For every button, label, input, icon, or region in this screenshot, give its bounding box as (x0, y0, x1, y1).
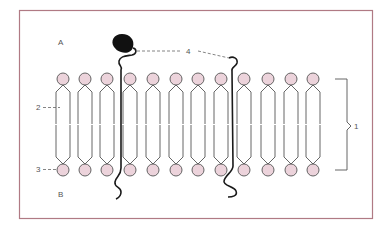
phospholipid-top (123, 73, 137, 124)
polar-head (192, 73, 204, 85)
phospholipid-bottom (214, 125, 228, 176)
fatty-acid-tails (146, 85, 160, 124)
fatty-acid-tails (100, 85, 114, 124)
polar-head (124, 164, 136, 176)
fatty-acid-tails (284, 85, 298, 124)
polar-head (262, 164, 274, 176)
polar-head (101, 73, 113, 85)
fatty-acid-tails (306, 85, 320, 124)
phospholipid-top (237, 73, 251, 124)
phospholipid-bottom (56, 125, 70, 176)
phospholipid-bottom (306, 125, 320, 176)
polar-head (285, 164, 297, 176)
phospholipid-bottom (191, 125, 205, 176)
fatty-acid-tails (191, 85, 205, 124)
polar-head (307, 73, 319, 85)
polar-head (192, 164, 204, 176)
fatty-acid-tails (237, 85, 251, 124)
polar-head (215, 73, 227, 85)
bilayer-bracket (335, 79, 351, 170)
polar-head (170, 73, 182, 85)
phospholipid-bottom (123, 125, 137, 176)
lipid-bilayer-diagram: 4 A B 2 3 1 (0, 0, 388, 232)
fatty-acid-tails (78, 85, 92, 124)
polar-head (147, 164, 159, 176)
phospholipid-bottom (100, 125, 114, 176)
fatty-acid-tails (214, 125, 228, 164)
fatty-acid-tails (56, 85, 70, 124)
fatty-acid-tails (214, 85, 228, 124)
polar-head (57, 164, 69, 176)
phospholipid-top (306, 73, 320, 124)
protein-domain-blob (112, 34, 133, 53)
fatty-acid-tails (169, 85, 183, 124)
polar-head (238, 73, 250, 85)
polar-head (262, 73, 274, 85)
fatty-acid-tails (123, 125, 137, 164)
polar-head (79, 73, 91, 85)
protein-chain-left (115, 48, 136, 199)
phospholipid-top (100, 73, 114, 124)
polar-head (147, 73, 159, 85)
polar-head (124, 73, 136, 85)
polar-head (285, 73, 297, 85)
side-label-top: A (58, 38, 64, 47)
phospholipid-top (261, 73, 275, 124)
callout-label-bilayer: 1 (354, 122, 359, 131)
polar-head (57, 73, 69, 85)
phospholipid-top (284, 73, 298, 124)
phospholipid-top (214, 73, 228, 124)
phospholipid-layer (56, 73, 320, 176)
polar-head (101, 164, 113, 176)
fatty-acid-tails (237, 125, 251, 164)
phospholipid-top (78, 73, 92, 124)
callout-label-head: 3 (36, 165, 41, 174)
callout-4-leaders (137, 51, 229, 58)
phospholipid-bottom (284, 125, 298, 176)
phospholipid-top (146, 73, 160, 124)
fatty-acid-tails (56, 125, 70, 164)
phospholipid-bottom (237, 125, 251, 176)
fatty-acid-tails (123, 85, 137, 124)
fatty-acid-tails (169, 125, 183, 164)
fatty-acid-tails (191, 125, 205, 164)
fatty-acid-tails (146, 125, 160, 164)
polar-head (238, 164, 250, 176)
phospholipid-bottom (78, 125, 92, 176)
fatty-acid-tails (261, 125, 275, 164)
side-label-bottom: B (58, 190, 63, 199)
polar-head (79, 164, 91, 176)
polar-head (215, 164, 227, 176)
callout-label-protein: 4 (186, 47, 191, 56)
phospholipid-bottom (261, 125, 275, 176)
fatty-acid-tails (100, 125, 114, 164)
phospholipid-top (191, 73, 205, 124)
phospholipid-top (169, 73, 183, 124)
fatty-acid-tails (284, 125, 298, 164)
fatty-acid-tails (306, 125, 320, 164)
phospholipid-bottom (169, 125, 183, 176)
polar-head (307, 164, 319, 176)
phospholipid-bottom (146, 125, 160, 176)
phospholipid-top (56, 73, 70, 124)
polar-head (170, 164, 182, 176)
callout-label-tail: 2 (36, 103, 41, 112)
fatty-acid-tails (261, 85, 275, 124)
fatty-acid-tails (78, 125, 92, 164)
